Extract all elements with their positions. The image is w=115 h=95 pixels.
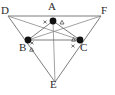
segment-DE <box>8 16 55 82</box>
angle-mark-cross-at-B <box>30 42 33 45</box>
vertex-label-A: A <box>48 1 56 12</box>
geometry-figure: A B C D E F <box>0 0 115 95</box>
segment-BF <box>28 16 101 40</box>
angle-mark-cross-at-C <box>71 45 74 48</box>
vertex-label-C: C <box>80 42 87 53</box>
vertex-label-B: B <box>19 42 26 53</box>
vertex-label-D: D <box>1 5 9 16</box>
angle-mark-triangle-at-A <box>60 20 64 24</box>
point-A-dot <box>50 18 57 25</box>
geometry-canvas <box>0 0 115 95</box>
angle-marks <box>30 20 76 51</box>
segment-AE <box>53 21 55 82</box>
angle-mark-cross-at-A <box>43 21 46 24</box>
vertex-label-E: E <box>50 79 57 90</box>
segment-FE <box>55 16 101 82</box>
vertex-label-F: F <box>101 5 107 16</box>
